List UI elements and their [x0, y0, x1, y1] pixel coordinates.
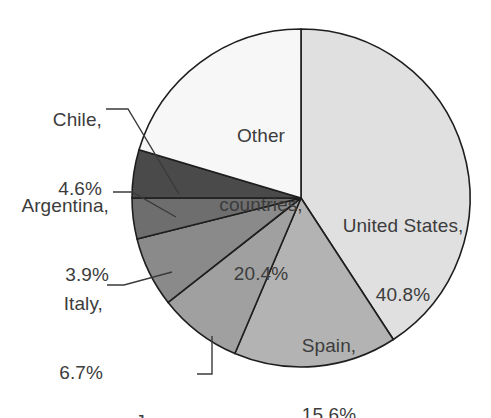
slice-label-spain: Spain, 15.6% — [283, 288, 375, 418]
slice-label-japan-name: Japan, — [100, 410, 193, 418]
slice-label-other-countries-value: 20.4% — [196, 262, 326, 285]
slice-label-chile-name: Chile, — [20, 108, 102, 131]
slice-label-italy-name: Italy, — [10, 292, 103, 315]
slice-label-other-countries-name2: countries, — [196, 193, 326, 216]
slice-label-united-states-name: United States, — [333, 214, 473, 237]
slice-label-japan: Japan, 8.0% — [100, 364, 193, 418]
slice-label-spain-name: Spain, — [283, 334, 375, 357]
leader-line-japan — [197, 336, 212, 374]
slice-label-other-countries-name: Other — [196, 124, 326, 147]
pie-chart: Other countries, 20.4% United States, 40… — [0, 0, 491, 418]
slice-label-italy: Italy, 6.7% — [10, 246, 103, 418]
slice-label-argentina-name: Argentina, — [2, 194, 109, 217]
slice-label-spain-value: 15.6% — [283, 403, 375, 418]
slice-label-italy-value: 6.7% — [10, 361, 103, 384]
